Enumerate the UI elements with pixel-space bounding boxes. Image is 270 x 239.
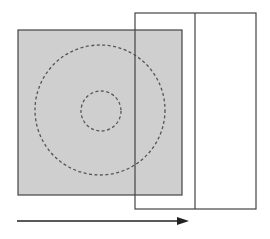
direction-arrow-icon <box>17 217 189 225</box>
diagram-canvas <box>0 0 270 239</box>
gray-square <box>18 30 182 195</box>
